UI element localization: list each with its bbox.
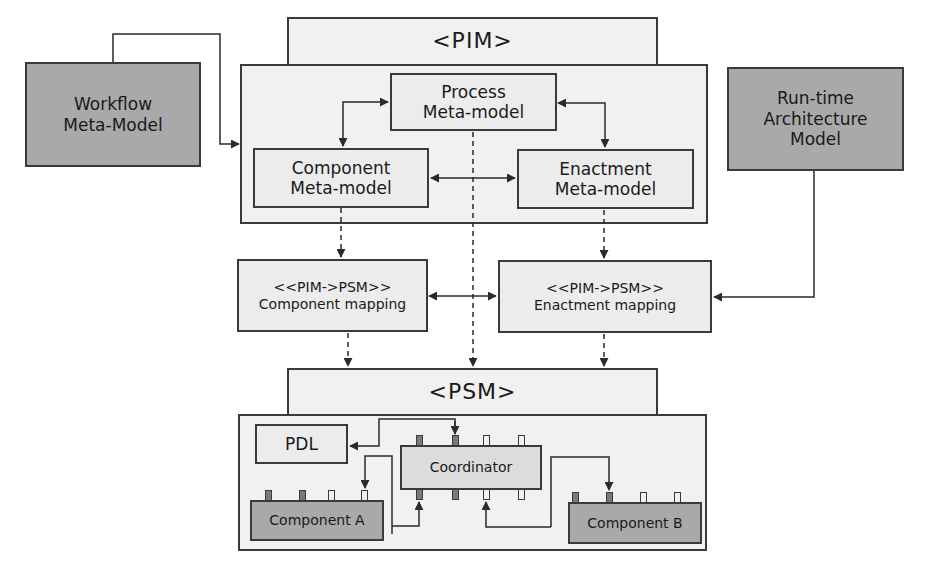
coordinator-port-bottom-3 (483, 489, 490, 500)
pim-package-tab: <PIM> (287, 17, 658, 66)
enactment-mapping-stereotype: <<PIM->PSM>> (546, 280, 664, 297)
component-mapping-box[interactable]: <<PIM->PSM>> Component mapping (237, 259, 428, 332)
component-b-port-2 (606, 492, 613, 503)
component-b-box[interactable]: Component B (568, 502, 702, 544)
coordinator-port-bottom-4 (518, 489, 525, 500)
component-meta-model-box[interactable]: Component Meta-model (253, 148, 429, 208)
pim-title: <PIM> (432, 28, 513, 54)
coordinator-port-top-4 (518, 435, 525, 446)
coordinator-port-top-1 (416, 435, 423, 446)
enactment-meta-model-box[interactable]: Enactment Meta-model (517, 149, 694, 209)
process-label-line2: Meta-model (423, 102, 524, 122)
workflow-label-line2: Meta-Model (63, 115, 162, 135)
workflow-meta-model-box[interactable]: Workflow Meta-Model (25, 62, 201, 167)
component-b-port-1 (572, 492, 579, 503)
component-a-port-1 (265, 490, 272, 501)
coordinator-port-top-2 (452, 435, 459, 446)
component-a-box[interactable]: Component A (250, 500, 384, 541)
component-b-label: Component B (587, 515, 682, 532)
runtime-architecture-model-box[interactable]: Run-time Architecture Model (727, 67, 904, 171)
runtime-label-line2: Architecture (763, 109, 867, 129)
component-mm-label-line1: Component (292, 158, 391, 178)
psm-package-tab: <PSM> (287, 368, 658, 416)
enactment-mapping-label: Enactment mapping (534, 297, 676, 314)
coordinator-port-top-3 (483, 435, 490, 446)
pdl-box[interactable]: PDL (255, 424, 348, 464)
process-meta-model-box[interactable]: Process Meta-model (390, 73, 557, 131)
component-a-label: Component A (269, 512, 364, 529)
component-mapping-label: Component mapping (259, 296, 406, 313)
component-b-port-3 (640, 492, 647, 503)
component-mm-label-line2: Meta-model (290, 178, 391, 198)
enactment-mm-label-line2: Meta-model (555, 179, 656, 199)
coordinator-port-bottom-1 (416, 489, 423, 500)
component-b-port-4 (674, 492, 681, 503)
component-a-port-4 (361, 490, 368, 501)
component-a-port-2 (299, 490, 306, 501)
coordinator-port-bottom-2 (452, 489, 459, 500)
runtime-label-line1: Run-time (777, 88, 854, 108)
process-label-line1: Process (441, 82, 506, 102)
enactment-mapping-box[interactable]: <<PIM->PSM>> Enactment mapping (498, 260, 712, 333)
component-a-port-3 (328, 490, 335, 501)
psm-title: <PSM> (428, 379, 516, 405)
runtime-label-line3: Model (790, 129, 841, 149)
coordinator-box[interactable]: Coordinator (400, 445, 542, 490)
enactment-mm-label-line1: Enactment (559, 159, 651, 179)
component-mapping-stereotype: <<PIM->PSM>> (274, 279, 392, 296)
workflow-label-line1: Workflow (74, 94, 152, 114)
coordinator-label: Coordinator (430, 459, 512, 476)
pdl-label: PDL (285, 434, 318, 454)
